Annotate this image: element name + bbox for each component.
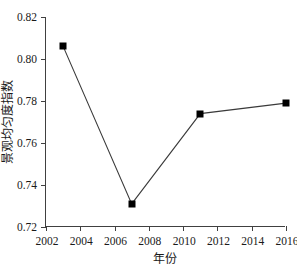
y-tick-label: 0.76	[17, 138, 37, 150]
x-tick-label: 2008	[138, 236, 161, 248]
x-tick-label: 2012	[207, 236, 230, 248]
x-tick-label: 2010	[173, 236, 196, 248]
data-point-marker	[283, 100, 290, 107]
y-axis-title-text: 景观均匀度指数	[2, 80, 14, 164]
y-tick-label: 0.78	[17, 96, 37, 108]
x-tick-label: 2014	[241, 236, 264, 248]
chart-figure: 景观均匀度指数 0.720.740.760.780.800.82 2002200…	[0, 0, 297, 276]
x-axis-title: 年份	[45, 253, 285, 265]
y-axis-title: 景观均匀度指数	[0, 17, 16, 227]
y-tick-label: 0.72	[17, 222, 37, 234]
x-axis-title-text: 年份	[153, 252, 177, 266]
data-point-marker	[60, 43, 67, 50]
plot-area: 0.720.740.760.780.800.82 200220042006200…	[45, 17, 285, 227]
x-tick-label: 2016	[276, 236, 298, 248]
x-tick-label: 2006	[104, 236, 127, 248]
series-line	[46, 17, 286, 227]
x-tick: 2016	[286, 226, 287, 231]
series-polyline	[63, 46, 286, 204]
y-tick-label: 0.82	[17, 12, 37, 24]
y-tick-label: 0.74	[17, 180, 37, 192]
x-tick-label: 2004	[70, 236, 93, 248]
data-point-marker	[128, 200, 135, 207]
x-tick-label: 2002	[36, 236, 59, 248]
y-tick-label: 0.80	[17, 54, 37, 66]
data-point-marker	[197, 110, 204, 117]
